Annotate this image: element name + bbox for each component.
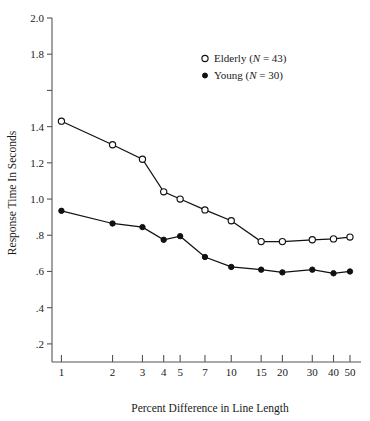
x-axis-title: Percent Difference in Line Length <box>131 402 289 415</box>
y-axis-tick-label: .8 <box>36 229 45 241</box>
chart-figure: .2.4.6.81.01.21.41.82.0 1234571015203040… <box>0 0 370 421</box>
data-point <box>202 207 208 213</box>
legend-label: Young (N = 30) <box>214 69 283 82</box>
data-point <box>331 271 336 276</box>
y-axis-tick-label: 2.0 <box>30 12 44 24</box>
y-axis-tick-label: 1.2 <box>30 157 44 169</box>
legend-marker <box>202 55 208 61</box>
y-axis-tick-label: .6 <box>36 265 45 277</box>
data-point <box>229 264 234 269</box>
data-point <box>161 237 166 242</box>
legend-marker <box>203 73 208 78</box>
legend-label: Elderly (N = 43) <box>214 52 287 65</box>
data-point <box>140 224 145 229</box>
data-point <box>309 237 315 243</box>
data-point <box>177 196 183 202</box>
data-point <box>258 239 264 245</box>
data-point <box>177 233 182 238</box>
response-time-line-chart: .2.4.6.81.01.21.41.82.0 1234571015203040… <box>0 0 370 421</box>
data-point <box>139 156 145 162</box>
data-point <box>58 118 64 124</box>
data-point <box>280 270 285 275</box>
data-point <box>279 239 285 245</box>
data-point <box>347 269 352 274</box>
y-axis-title: Response Time In Seconds <box>6 130 19 255</box>
x-axis-tick-label: 40 <box>328 366 340 378</box>
x-axis-tick-label: 10 <box>226 366 238 378</box>
data-point <box>228 218 234 224</box>
y-axis-tick-label: 1.0 <box>30 193 44 205</box>
plot-background <box>0 0 370 421</box>
x-axis-tick-label: 1 <box>59 366 65 378</box>
x-axis-tick-label: 50 <box>344 366 356 378</box>
data-point <box>258 267 263 272</box>
x-axis-tick-label: 4 <box>161 366 167 378</box>
data-point <box>330 236 336 242</box>
data-point <box>161 189 167 195</box>
data-point <box>109 142 115 148</box>
x-axis-tick-label: 20 <box>277 366 289 378</box>
x-axis-tick-label: 30 <box>307 366 319 378</box>
x-axis-tick-label: 7 <box>202 366 208 378</box>
data-point <box>59 208 64 213</box>
data-point <box>310 267 315 272</box>
y-axis-tick-label: .4 <box>36 302 45 314</box>
y-axis-tick-label: 1.4 <box>30 121 44 133</box>
data-point <box>202 254 207 259</box>
y-axis-tick-label: .2 <box>36 338 44 350</box>
x-axis-tick-label: 3 <box>140 366 146 378</box>
y-axis-tick-label: 1.8 <box>30 48 44 60</box>
data-point <box>347 234 353 240</box>
x-axis-tick-label: 2 <box>110 366 116 378</box>
x-axis-tick-label: 15 <box>256 366 268 378</box>
x-axis-tick-label: 5 <box>177 366 183 378</box>
data-point <box>110 221 115 226</box>
